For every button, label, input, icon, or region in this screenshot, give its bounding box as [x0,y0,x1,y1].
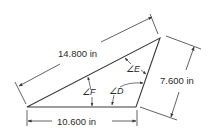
extension-line [140,107,177,120]
angle-arrow [112,95,114,105]
triangle-diagram: 14.800 in 7.600 in 10.600 in ∠F ∠D ∠E [0,0,214,136]
angle-f-label: ∠F [82,87,96,97]
angle-arrow [141,70,146,74]
base-dimension: 10.600 in [27,110,137,127]
dimension-arrow [101,17,152,42]
right-side-length-label: 7.600 in [160,75,194,86]
dimension-arrow [19,64,60,86]
angle-d-label: ∠D [109,86,124,96]
extension-line [166,36,201,49]
angle-e-marker: ∠E [125,58,146,74]
base-length-label: 10.600 in [57,116,96,127]
right-side-dimension: 7.600 in [140,36,201,120]
angle-f-marker: ∠F [82,77,96,106]
dimension-arrow [186,47,194,70]
dimension-arrow [171,92,179,117]
angle-e-label: ∠E [126,64,141,74]
hypotenuse-length-label: 14.800 in [58,48,97,59]
